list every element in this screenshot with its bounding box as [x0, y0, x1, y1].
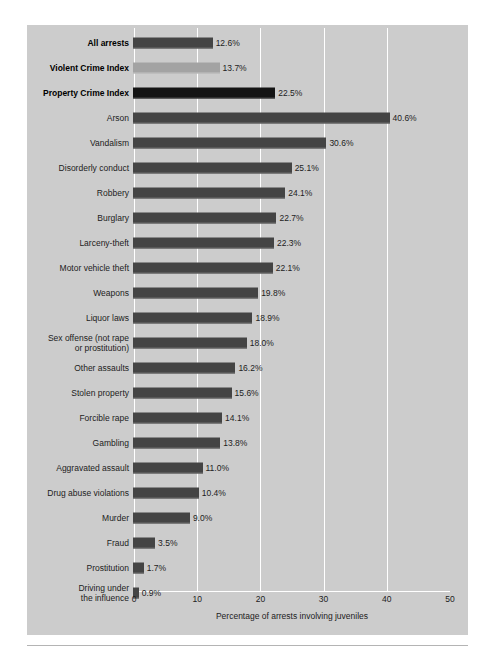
bar-value-label: 11.0%: [203, 463, 229, 473]
table-row: Liquor laws18.9%: [27, 305, 468, 330]
table-row: Weapons19.8%: [27, 280, 468, 305]
bar-value-label: 3.5%: [155, 538, 177, 548]
table-row: Stolen property15.6%: [27, 380, 468, 405]
category-label: Liquor laws: [27, 313, 133, 323]
category-label: All arrests: [27, 38, 133, 48]
category-label: Arson: [27, 113, 133, 123]
bar: [133, 437, 220, 448]
bar-value-label: 12.6%: [213, 38, 240, 48]
bar: [133, 137, 326, 148]
category-label: Fraud: [27, 538, 133, 548]
table-row: All arrests12.6%: [27, 30, 468, 55]
category-label: Larceny-theft: [27, 238, 133, 248]
x-tick-label: 10: [192, 594, 201, 604]
bar-track: 30.6%: [133, 130, 468, 155]
category-label: Prostitution: [27, 563, 133, 573]
bar-track: 1.7%: [133, 555, 468, 580]
bar: [133, 162, 292, 173]
table-row: Murder9.0%: [27, 505, 468, 530]
bar-value-label: 13.8%: [220, 438, 247, 448]
bar: [133, 462, 203, 473]
bar-value-label: 24.1%: [285, 188, 312, 198]
bar-track: 16.2%: [133, 355, 468, 380]
bar-track: 22.1%: [133, 255, 468, 280]
table-row: Robbery24.1%: [27, 180, 468, 205]
page-divider-rule: [27, 645, 468, 646]
bar: [133, 512, 190, 523]
category-label: Vandalism: [27, 138, 133, 148]
bar: [133, 562, 144, 573]
category-label: Disorderly conduct: [27, 163, 133, 173]
table-row: Forcible rape14.1%: [27, 405, 468, 430]
bar: [133, 537, 155, 548]
table-row: Other assaults16.2%: [27, 355, 468, 380]
table-row: Violent Crime Index13.7%: [27, 55, 468, 80]
category-label: Murder: [27, 513, 133, 523]
bar-track: 19.8%: [133, 280, 468, 305]
bar: [133, 487, 199, 498]
table-row: Prostitution1.7%: [27, 555, 468, 580]
bar-value-label: 22.3%: [274, 238, 301, 248]
category-label: Aggravated assault: [27, 463, 133, 473]
bar: [133, 287, 258, 298]
x-tick-label: 20: [256, 594, 265, 604]
bar-track: 13.7%: [133, 55, 468, 80]
x-tick-label: 50: [445, 594, 454, 604]
category-label: Robbery: [27, 188, 133, 198]
bar-track: 9.0%: [133, 505, 468, 530]
category-label: Stolen property: [27, 388, 133, 398]
bar-track: 18.9%: [133, 305, 468, 330]
table-row: Disorderly conduct25.1%: [27, 155, 468, 180]
bar-track: 40.6%: [133, 105, 468, 130]
bar-value-label: 10.4%: [199, 488, 226, 498]
category-label: Driving under the influence: [27, 583, 133, 603]
bar-track: 22.3%: [133, 230, 468, 255]
table-row: Burglary22.7%: [27, 205, 468, 230]
table-row: Gambling13.8%: [27, 430, 468, 455]
bar: [133, 387, 232, 398]
bar-track: 24.1%: [133, 180, 468, 205]
bar-track: 15.6%: [133, 380, 468, 405]
bar-value-label: 19.8%: [258, 288, 285, 298]
bar-track: 22.7%: [133, 205, 468, 230]
bar-value-label: 15.6%: [232, 388, 259, 398]
bar-track: 25.1%: [133, 155, 468, 180]
table-row: Property Crime Index22.5%: [27, 80, 468, 105]
bar-value-label: 40.6%: [390, 113, 417, 123]
bar-value-label: 22.5%: [275, 88, 302, 98]
category-label: Weapons: [27, 288, 133, 298]
bar-track: 18.0%: [133, 330, 468, 355]
x-tick-label: 30: [319, 594, 328, 604]
bar: [133, 237, 274, 248]
bar-value-label: 18.0%: [247, 338, 274, 348]
bar: [133, 62, 220, 73]
table-row: Aggravated assault11.0%: [27, 455, 468, 480]
table-row: Larceny-theft22.3%: [27, 230, 468, 255]
category-label: Violent Crime Index: [27, 63, 133, 73]
x-axis-title: Percentage of arrests involving juvenile…: [134, 611, 450, 621]
bar: [133, 312, 252, 323]
bar: [133, 362, 235, 373]
bar-track: 3.5%: [133, 530, 468, 555]
x-tick-label: 0: [132, 594, 137, 604]
bar: [133, 112, 390, 123]
bar-value-label: 1.7%: [144, 563, 166, 573]
bar-value-label: 25.1%: [292, 163, 319, 173]
category-label: Other assaults: [27, 363, 133, 373]
table-row: Sex offense (not rape or prostitution)18…: [27, 330, 468, 355]
bar: [133, 212, 276, 223]
bar: [133, 412, 222, 423]
bar-track: 13.8%: [133, 430, 468, 455]
category-label: Drug abuse violations: [27, 488, 133, 498]
bar-value-label: 22.1%: [273, 263, 300, 273]
x-tick-label: 40: [382, 594, 391, 604]
bar-track: 14.1%: [133, 405, 468, 430]
bar-value-label: 14.1%: [222, 413, 249, 423]
bar: [133, 262, 273, 273]
table-row: Arson40.6%: [27, 105, 468, 130]
table-row: Vandalism30.6%: [27, 130, 468, 155]
bar: [133, 187, 285, 198]
bar-rows: All arrests12.6%Violent Crime Index13.7%…: [27, 30, 468, 605]
bar-track: 22.5%: [133, 80, 468, 105]
bar-value-label: 13.7%: [220, 63, 247, 73]
